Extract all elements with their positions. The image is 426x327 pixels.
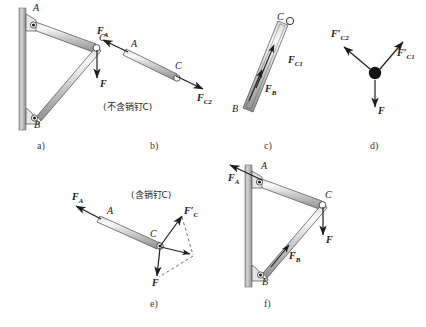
note-panel-b: (不含销钉C) [103,100,152,113]
label-force-f-panel-e: F [152,277,159,288]
member-bc-f [263,203,327,278]
label-point-a-panel-b: A [131,38,137,49]
rod-ac-b [123,49,177,80]
label-force-fb-panel-f: FB [289,250,300,264]
pin-c-body-d [369,67,381,79]
label-force-fc2-prime-panel-d: F′C2 [331,28,349,42]
pin-a-dot [32,24,35,27]
label-force-f-panel-a: F [100,78,107,89]
label-point-b-panel-f: B [262,276,268,287]
panel-b-diagram [103,40,203,89]
member-ac-a [31,21,96,52]
label-force-fc2-panel-b: FC2 [197,92,212,106]
panel-label-a: a) [37,140,45,151]
label-force-f-panel-f: F [326,234,333,245]
wall-a [19,8,26,130]
panel-f-diagram [230,165,327,287]
label-force-fa-panel-b: FA [97,25,108,39]
force-fa-arrow-b [103,40,128,52]
label-point-c-panel-c: C [277,11,284,22]
label-point-c-panel-e: C [150,228,157,239]
panel-label-d: d) [370,140,378,151]
panel-label-b: b) [150,140,158,151]
force-fc-prime-arrow-e [161,216,182,245]
force-fa-arrow-e [76,206,101,219]
label-force-f-panel-d: F [378,105,385,116]
label-force-fa-panel-e: FA [72,191,83,205]
label-point-a-panel-a: A [33,2,39,13]
member-bc-a [37,46,101,121]
label-point-b-panel-c: B [232,103,238,114]
panel-d-diagram [344,42,403,107]
pin-c-hole-c [286,17,293,24]
panel-label-e: e) [150,298,158,309]
panel-e-diagram [76,206,193,277]
dashed-guide-2-e [159,256,193,277]
label-point-b-panel-a: B [34,119,40,130]
mechanics-figure: A B C F FA A C FC2 (不含销钉C) C B FC1 FB F′… [0,0,426,327]
force-fc2-prime-arrow-d [344,47,370,69]
panel-a-diagram [19,8,101,130]
label-force-fb-panel-c: FB [265,83,276,97]
label-force-fa-panel-f: FA [228,172,239,186]
note-panel-e: (含销钉C) [131,188,171,201]
member-ac-f [257,178,322,209]
force-f-arrow-e [157,248,160,276]
panel-label-c: c) [264,140,272,151]
wall-f [245,165,252,287]
force-fc2-arrow-b [176,76,203,89]
figure-canvas [0,0,426,327]
label-force-fc1-panel-c: FC1 [288,54,303,68]
label-point-c-panel-f: C [325,189,332,200]
pin-a-dot-f [258,181,261,184]
label-force-fc-prime-panel-e: F′C [184,205,198,219]
force-horizontal-component-e [161,247,190,254]
dashed-guide-1-e [182,217,193,255]
label-point-a-panel-e: A [107,205,113,216]
panel-label-f: f) [264,298,271,309]
label-point-c-panel-b: C [175,60,182,71]
label-force-fc1-prime-panel-d: F′C1 [397,47,415,61]
label-point-a-panel-f: A [261,160,267,171]
panel-c-diagram [243,17,294,112]
